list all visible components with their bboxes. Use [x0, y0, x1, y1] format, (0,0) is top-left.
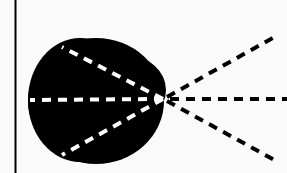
outer-rays: [167, 35, 287, 162]
diagram-canvas: [0, 0, 287, 173]
